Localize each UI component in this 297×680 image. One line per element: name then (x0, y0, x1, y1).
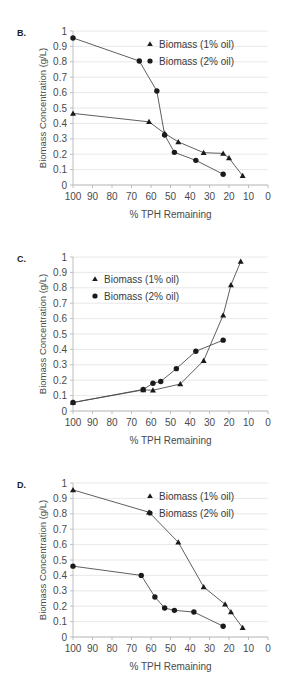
svg-text:Biomass (2% oil): Biomass (2% oil) (159, 508, 234, 519)
svg-text:80: 80 (106, 191, 118, 202)
svg-text:0.2: 0.2 (53, 375, 67, 386)
svg-text:0: 0 (265, 191, 271, 202)
svg-text:0.3: 0.3 (53, 133, 67, 144)
chart-svg-c: 00.10.20.30.40.50.60.70.80.9110090807060… (0, 226, 297, 452)
svg-text:0.5: 0.5 (53, 103, 67, 114)
svg-text:0.2: 0.2 (53, 601, 67, 612)
svg-text:0.9: 0.9 (53, 267, 67, 278)
svg-text:70: 70 (126, 191, 138, 202)
svg-text:70: 70 (126, 643, 138, 654)
svg-text:50: 50 (165, 191, 177, 202)
svg-text:70: 70 (126, 417, 138, 428)
svg-text:0: 0 (61, 632, 67, 643)
svg-text:Biomass Concentration (g/L): Biomass Concentration (g/L) (37, 48, 48, 168)
svg-text:0: 0 (265, 417, 271, 428)
chart-svg-b: 00.10.20.30.40.50.60.70.80.9110090807060… (0, 0, 297, 226)
svg-text:40: 40 (184, 417, 196, 428)
svg-text:Biomass (1% oil): Biomass (1% oil) (104, 274, 179, 285)
chart-panel-b: B. 00.10.20.30.40.50.60.70.80.9110090807… (0, 0, 297, 226)
svg-text:90: 90 (87, 417, 99, 428)
svg-text:0.2: 0.2 (53, 149, 67, 160)
svg-text:30: 30 (204, 417, 216, 428)
svg-text:0.5: 0.5 (53, 555, 67, 566)
svg-text:0.8: 0.8 (53, 282, 67, 293)
chart-svg-d: 00.10.20.30.40.50.60.70.80.9110090807060… (0, 452, 297, 678)
svg-text:30: 30 (204, 191, 216, 202)
svg-text:0.7: 0.7 (53, 298, 67, 309)
svg-text:90: 90 (87, 643, 99, 654)
chart-panel-d: D. 00.10.20.30.40.50.60.70.80.9110090807… (0, 452, 297, 678)
svg-text:50: 50 (165, 643, 177, 654)
svg-text:80: 80 (106, 643, 118, 654)
svg-text:0.8: 0.8 (53, 56, 67, 67)
svg-text:40: 40 (184, 191, 196, 202)
svg-text:1: 1 (61, 252, 67, 263)
svg-text:50: 50 (165, 417, 177, 428)
svg-text:Biomass (2% oil): Biomass (2% oil) (104, 291, 179, 302)
svg-text:20: 20 (223, 417, 235, 428)
svg-text:Biomass Concentration (g/L): Biomass Concentration (g/L) (37, 274, 48, 394)
svg-text:100: 100 (65, 643, 82, 654)
svg-text:Biomass (1% oil): Biomass (1% oil) (159, 39, 234, 50)
svg-text:0.9: 0.9 (53, 41, 67, 52)
svg-text:60: 60 (145, 643, 157, 654)
svg-text:% TPH Remaining: % TPH Remaining (129, 661, 211, 672)
svg-text:0.1: 0.1 (53, 390, 67, 401)
svg-text:0.3: 0.3 (53, 359, 67, 370)
svg-text:Biomass (1% oil): Biomass (1% oil) (159, 491, 234, 502)
svg-text:% TPH Remaining: % TPH Remaining (129, 209, 211, 220)
svg-text:1: 1 (61, 478, 67, 489)
svg-text:0.5: 0.5 (53, 329, 67, 340)
svg-text:60: 60 (145, 191, 157, 202)
chart-panel-c: C. 00.10.20.30.40.50.60.70.80.9110090807… (0, 226, 297, 452)
svg-text:Biomass (2% oil): Biomass (2% oil) (159, 56, 234, 67)
svg-text:0.6: 0.6 (53, 87, 67, 98)
svg-text:20: 20 (223, 191, 235, 202)
svg-text:0: 0 (265, 643, 271, 654)
svg-text:0.9: 0.9 (53, 493, 67, 504)
svg-text:20: 20 (223, 643, 235, 654)
svg-text:10: 10 (243, 643, 255, 654)
svg-text:0.6: 0.6 (53, 313, 67, 324)
svg-text:0: 0 (61, 406, 67, 417)
svg-text:80: 80 (106, 417, 118, 428)
svg-text:30: 30 (204, 643, 216, 654)
svg-text:1: 1 (61, 26, 67, 37)
svg-text:0.6: 0.6 (53, 539, 67, 550)
svg-text:0.4: 0.4 (53, 344, 67, 355)
svg-text:0.1: 0.1 (53, 616, 67, 627)
svg-text:0.7: 0.7 (53, 524, 67, 535)
figure-container: B. 00.10.20.30.40.50.60.70.80.9110090807… (0, 0, 297, 680)
svg-text:100: 100 (65, 191, 82, 202)
svg-text:0.7: 0.7 (53, 72, 67, 83)
svg-text:40: 40 (184, 643, 196, 654)
svg-text:0.4: 0.4 (53, 570, 67, 581)
svg-text:0.8: 0.8 (53, 508, 67, 519)
svg-text:90: 90 (87, 191, 99, 202)
svg-text:0: 0 (61, 180, 67, 191)
svg-text:% TPH Remaining: % TPH Remaining (129, 435, 211, 446)
svg-text:10: 10 (243, 191, 255, 202)
svg-text:0.1: 0.1 (53, 164, 67, 175)
svg-text:0.3: 0.3 (53, 585, 67, 596)
svg-text:Biomass Concentration (g/L): Biomass Concentration (g/L) (37, 500, 48, 620)
svg-text:100: 100 (65, 417, 82, 428)
svg-text:0.4: 0.4 (53, 118, 67, 129)
svg-text:10: 10 (243, 417, 255, 428)
svg-text:60: 60 (145, 417, 157, 428)
